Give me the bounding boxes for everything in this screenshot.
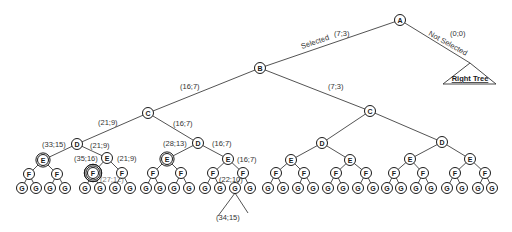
tree-node-g: G [155, 183, 166, 194]
tree-node-g: G [338, 183, 349, 194]
svg-text:G: G [82, 185, 88, 192]
tree-node-d: D [193, 138, 204, 149]
svg-text:G: G [19, 185, 25, 192]
tree-node-b: B [255, 63, 266, 74]
svg-text:F: F [27, 171, 32, 178]
tree-node-e: E [223, 154, 234, 165]
svg-text:G: G [143, 185, 149, 192]
tree-edge-continuation [235, 193, 248, 213]
edge-label: (7;3) [328, 82, 344, 91]
tree-node-g: G [396, 183, 407, 194]
tree-edge [260, 20, 400, 68]
svg-text:F: F [151, 170, 156, 177]
edge-label: (21;9) [117, 154, 137, 163]
edge-label: (21;9) [90, 141, 110, 150]
tree-node-g: G [487, 183, 498, 194]
svg-text:F: F [483, 170, 488, 177]
svg-text:G: G [186, 185, 192, 192]
svg-text:G: G [47, 185, 53, 192]
svg-text:G: G [428, 185, 434, 192]
svg-text:F: F [364, 170, 369, 177]
tree-node-g: G [200, 183, 211, 194]
tree-node-f: F [418, 168, 429, 179]
tree-node-f: F [331, 168, 342, 179]
svg-text:D: D [319, 140, 324, 147]
not-selected-edge [400, 20, 470, 63]
svg-text:G: G [459, 185, 465, 192]
tree-node-f: F [480, 168, 491, 179]
tree-node-g: G [45, 183, 56, 194]
svg-text:F: F [211, 170, 216, 177]
tree-node-f: F [389, 168, 400, 179]
svg-text:E: E [408, 156, 413, 163]
tree-node-e: E [102, 153, 113, 164]
tree-node-g: G [293, 183, 304, 194]
svg-text:G: G [127, 185, 133, 192]
tree-node-e: E [160, 152, 174, 166]
svg-text:F: F [334, 170, 339, 177]
tree-node-g: G [442, 183, 453, 194]
tree-node-g: G [80, 183, 91, 194]
edge-label: (34;15) [216, 213, 240, 222]
svg-text:G: G [370, 185, 376, 192]
svg-text:G: G [157, 185, 163, 192]
svg-text:E: E [105, 155, 110, 162]
tree-node-e: E [465, 154, 476, 165]
edge-labels: Selected(7;3)Not Selected(0;0)(16;7)(7;3… [42, 29, 469, 222]
svg-text:G: G [295, 185, 301, 192]
svg-text:B: B [257, 65, 262, 72]
tree-node-g: G [278, 183, 289, 194]
tree-node-g: G [95, 183, 106, 194]
svg-text:F: F [302, 170, 307, 177]
tree-edge [322, 111, 370, 143]
svg-text:D: D [439, 139, 444, 146]
tree-node-f: F [176, 168, 187, 179]
svg-text:G: G [97, 185, 103, 192]
tree-node-e: E [405, 154, 416, 165]
tree-node-g: G [323, 183, 334, 194]
tree-node-g: G [184, 183, 195, 194]
svg-text:E: E [165, 156, 170, 163]
svg-text:G: G [475, 185, 481, 192]
edge-label: (35;16) [74, 154, 98, 163]
right-tree-label: Right Tree [452, 74, 489, 83]
tree-node-d: D [317, 138, 328, 149]
right-tree-subtree: Right Tree [443, 63, 496, 84]
svg-text:G: G [217, 185, 223, 192]
tree-node-g: G [368, 183, 379, 194]
svg-text:C: C [145, 110, 150, 117]
svg-text:G: G [247, 185, 253, 192]
tree-node-d: D [437, 137, 448, 148]
svg-text:F: F [274, 170, 279, 177]
tree-node-g: G [215, 183, 226, 194]
tree-node-f: F [271, 168, 282, 179]
svg-text:G: G [398, 185, 404, 192]
tree-node-g: G [230, 183, 241, 194]
edge-label: (21;9) [98, 118, 118, 127]
edge-label: (27;12) [100, 175, 124, 184]
svg-text:G: G [489, 185, 495, 192]
edge-label: (28;13) [163, 139, 187, 148]
tree-node-d: D [72, 139, 83, 150]
tree-node-e: E [286, 155, 297, 166]
svg-text:G: G [33, 185, 39, 192]
tree-node-g: G [457, 183, 468, 194]
svg-text:G: G [340, 185, 346, 192]
edge-label: (33;15) [42, 140, 66, 149]
svg-text:G: G [202, 185, 208, 192]
tree-node-g: G [60, 183, 71, 194]
svg-text:G: G [413, 185, 419, 192]
svg-text:F: F [453, 170, 458, 177]
tree-edge [260, 68, 370, 111]
svg-text:G: G [232, 185, 238, 192]
svg-text:C: C [367, 108, 372, 115]
tree-node-a: A [395, 15, 406, 26]
tree-edge [148, 68, 260, 113]
tree-node-e: E [345, 155, 356, 166]
tree-node-f: F [299, 168, 310, 179]
edge-label: (7;3) [334, 29, 350, 38]
svg-text:G: G [325, 185, 331, 192]
svg-text:G: G [265, 185, 271, 192]
svg-text:D: D [195, 140, 200, 147]
edge-label: (16;7) [173, 119, 193, 128]
